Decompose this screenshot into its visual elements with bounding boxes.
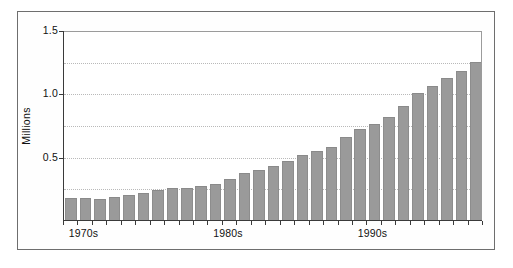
bar <box>427 86 439 220</box>
x-axis-tick-mark <box>280 221 281 225</box>
x-axis-tick-mark <box>439 221 440 225</box>
x-axis-tick-mark <box>265 221 266 225</box>
y-axis-tick-label: 0.5 <box>0 152 58 163</box>
x-axis-tick-mark <box>179 221 180 225</box>
x-axis-tick-mark <box>366 221 367 225</box>
bar <box>152 190 164 220</box>
bar <box>470 62 482 220</box>
x-axis-tick-mark <box>338 221 339 225</box>
bar <box>123 195 135 220</box>
bar <box>195 186 207 220</box>
x-axis-tick-mark <box>150 221 151 225</box>
bar <box>138 193 150 220</box>
bar <box>340 137 352 220</box>
bar <box>326 147 338 220</box>
x-axis-tick-mark <box>121 221 122 225</box>
bar <box>282 161 294 220</box>
x-axis-tick-label: 1990s <box>358 227 388 239</box>
bar <box>224 179 236 220</box>
x-axis-tick-mark <box>77 221 78 225</box>
bar <box>441 78 453 220</box>
x-axis-tick-mark <box>410 221 411 225</box>
x-axis-tick-mark <box>222 221 223 225</box>
bar <box>268 166 280 220</box>
y-axis-tick-mark <box>59 31 63 32</box>
y-axis-label-container: Millions <box>18 31 34 221</box>
x-axis-tick-mark <box>309 221 310 225</box>
x-axis-tick-mark <box>468 221 469 225</box>
y-axis-tick-mark <box>59 158 63 159</box>
bar <box>297 155 309 220</box>
x-axis-tick-mark <box>135 221 136 225</box>
bar <box>65 198 77 220</box>
x-axis-tick-mark <box>424 221 425 225</box>
x-axis-tick-mark <box>207 221 208 225</box>
x-axis-tick-mark <box>193 221 194 225</box>
x-axis-tick-mark <box>164 221 165 225</box>
bar <box>383 117 395 220</box>
bar <box>210 184 222 220</box>
x-axis-tick-mark <box>63 221 64 225</box>
x-axis-tick-mark <box>395 221 396 225</box>
x-axis-tick-marks <box>63 221 482 227</box>
y-axis-tick-label: 1.5 <box>0 25 58 36</box>
bar <box>412 93 424 220</box>
plot-area <box>63 31 482 221</box>
x-axis-tick-mark <box>352 221 353 225</box>
y-axis-label: Millions <box>20 107 32 144</box>
gridline <box>64 63 482 64</box>
x-axis-tick-label: 1970s <box>69 227 99 239</box>
bar <box>369 124 381 220</box>
x-axis-tick-mark <box>453 221 454 225</box>
bar <box>239 173 251 220</box>
bar <box>109 197 121 220</box>
figure-canvas: Millions 1.51.00.5 1970s1980s1990s <box>0 0 513 268</box>
bar <box>354 129 366 220</box>
y-axis-tick-mark <box>59 94 63 95</box>
y-axis-tick-label: 1.0 <box>0 88 58 99</box>
x-axis-tick-mark <box>236 221 237 225</box>
x-axis-tick-mark <box>251 221 252 225</box>
x-axis-tick-mark <box>323 221 324 225</box>
bar <box>181 188 193 220</box>
x-axis-tick-mark <box>294 221 295 225</box>
bar <box>398 106 410 220</box>
x-axis-tick-mark <box>482 221 483 225</box>
bar <box>167 188 179 220</box>
x-axis-tick-mark <box>106 221 107 225</box>
x-axis-tick-label: 1980s <box>213 227 243 239</box>
bar <box>311 151 323 220</box>
bar <box>456 71 468 220</box>
bar <box>253 170 265 220</box>
x-axis-tick-mark <box>92 221 93 225</box>
x-axis-tick-mark <box>381 221 382 225</box>
bar <box>80 198 92 220</box>
bar <box>94 199 106 220</box>
